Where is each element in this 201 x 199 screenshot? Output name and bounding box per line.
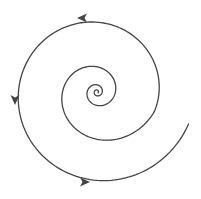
top-arrow-icon: [77, 14, 87, 23]
direction-arrows: [11, 14, 91, 187]
spiral-figure: [0, 0, 201, 199]
spiral-trajectory: [18, 22, 189, 181]
spiral-diagram: [0, 0, 201, 199]
